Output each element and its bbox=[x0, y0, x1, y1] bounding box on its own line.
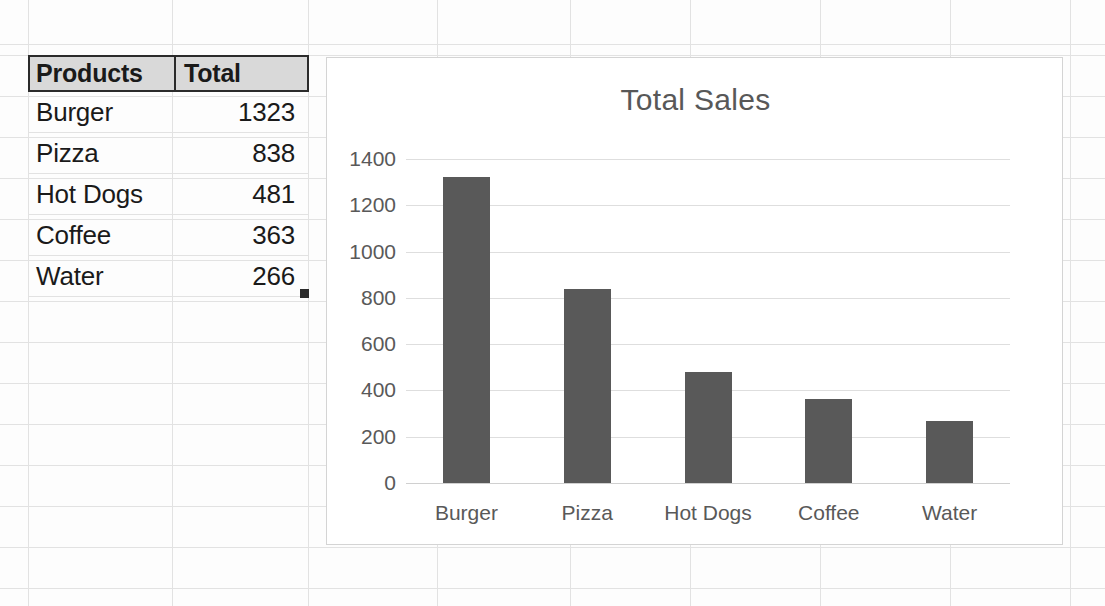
grid-row-line bbox=[0, 588, 1105, 589]
y-axis-tick-label: 800 bbox=[336, 286, 396, 310]
cell-total[interactable]: 363 bbox=[172, 215, 305, 255]
cell-total[interactable]: 481 bbox=[172, 174, 305, 214]
bar-hot-dogs[interactable] bbox=[685, 372, 732, 483]
y-axis-tick-label: 1400 bbox=[336, 147, 396, 171]
y-axis-tick-label: 600 bbox=[336, 332, 396, 356]
cell-total[interactable]: 266 bbox=[172, 256, 305, 296]
y-axis-labels: 1400120010008006004002000 bbox=[332, 159, 396, 483]
y-gridline bbox=[406, 159, 1010, 160]
x-axis-tick-label: Coffee bbox=[798, 501, 860, 525]
products-total-table[interactable]: Products Total Burger1323Pizza838Hot Dog… bbox=[28, 55, 309, 297]
spreadsheet-canvas: Products Total Burger1323Pizza838Hot Dog… bbox=[0, 0, 1105, 606]
fill-handle[interactable] bbox=[300, 289, 309, 298]
y-gridline bbox=[406, 205, 1010, 206]
grid-column-line bbox=[1070, 0, 1071, 606]
column-header-products: Products bbox=[30, 57, 174, 90]
bar-burger[interactable] bbox=[443, 177, 490, 483]
plot-area bbox=[406, 159, 1010, 483]
table-row[interactable]: Burger1323 bbox=[28, 92, 309, 133]
cell-product[interactable]: Water bbox=[28, 256, 172, 296]
table-body: Burger1323Pizza838Hot Dogs481Coffee363Wa… bbox=[28, 92, 309, 297]
chart-object[interactable]: Total Sales 1400120010008006004002000 Bu… bbox=[326, 57, 1063, 545]
cell-product[interactable]: Hot Dogs bbox=[28, 174, 172, 214]
cell-product[interactable]: Burger bbox=[28, 92, 172, 132]
x-axis-tick-label: Pizza bbox=[562, 501, 613, 525]
table-header-row: Products Total bbox=[28, 55, 309, 92]
column-header-total: Total bbox=[174, 57, 307, 90]
bar-pizza[interactable] bbox=[564, 289, 611, 483]
y-axis-tick-label: 1200 bbox=[336, 193, 396, 217]
chart-title: Total Sales bbox=[327, 83, 1064, 117]
bar-coffee[interactable] bbox=[805, 399, 852, 483]
table-row[interactable]: Pizza838 bbox=[28, 133, 309, 174]
y-gridline bbox=[406, 252, 1010, 253]
table-row[interactable]: Hot Dogs481 bbox=[28, 174, 309, 215]
cell-total[interactable]: 838 bbox=[172, 133, 305, 173]
table-row[interactable]: Water266 bbox=[28, 256, 309, 297]
x-axis-tick-label: Hot Dogs bbox=[664, 501, 752, 525]
table-row[interactable]: Coffee363 bbox=[28, 215, 309, 256]
y-gridline bbox=[406, 298, 1010, 299]
y-gridline bbox=[406, 344, 1010, 345]
y-axis-tick-label: 400 bbox=[336, 378, 396, 402]
y-gridline bbox=[406, 483, 1010, 484]
y-axis-tick-label: 1000 bbox=[336, 240, 396, 264]
x-axis-tick-label: Water bbox=[922, 501, 977, 525]
y-axis-tick-label: 0 bbox=[336, 471, 396, 495]
x-axis-tick-label: Burger bbox=[435, 501, 498, 525]
grid-row-line bbox=[0, 547, 1105, 548]
bar-water[interactable] bbox=[926, 421, 973, 483]
cell-total[interactable]: 1323 bbox=[172, 92, 305, 132]
cell-product[interactable]: Coffee bbox=[28, 215, 172, 255]
grid-row-line bbox=[0, 44, 1105, 45]
cell-product[interactable]: Pizza bbox=[28, 133, 172, 173]
y-axis-tick-label: 200 bbox=[336, 425, 396, 449]
